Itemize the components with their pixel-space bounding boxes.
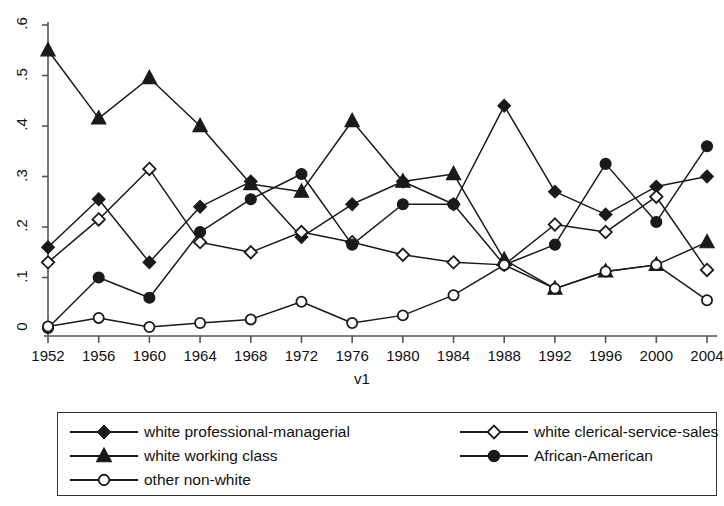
y-axis-tick-label: .4 [8, 116, 34, 136]
x-axis-title: v1 [0, 370, 724, 387]
x-axis-tick-label: 1976 [327, 347, 377, 364]
y-axis-tick-label: .5 [8, 66, 34, 86]
series-1 [42, 163, 713, 276]
plot-svg [0, 0, 724, 400]
legend: white professional-managerialwhite cleri… [57, 412, 717, 496]
plot-area: 0.1.2.3.4.5.6 19521956196019641968197219… [0, 0, 724, 400]
x-axis-tick-label: 1968 [226, 347, 276, 364]
x-axis-tick-label: 1960 [124, 347, 174, 364]
legend-label: African-American [534, 447, 653, 465]
x-axis-tick-label: 2000 [631, 347, 681, 364]
x-axis-tick-label: 1988 [479, 347, 529, 364]
x-axis-tick-label: 1984 [429, 347, 479, 364]
legend-label: white clerical-service-sales [534, 423, 718, 441]
legend-item[interactable]: white professional-managerial [68, 422, 458, 442]
legend-item[interactable]: white working class [68, 446, 458, 466]
legend-label: white professional-managerial [144, 423, 350, 441]
series-0 [42, 100, 713, 269]
x-axis-tick-label: 1952 [23, 347, 73, 364]
x-axis-tick-label: 1972 [276, 347, 326, 364]
series-2 [41, 43, 714, 295]
x-axis-tick-label: 1992 [530, 347, 580, 364]
legend-marker-filled-triangle-icon [68, 446, 140, 466]
y-axis-tick-label: .6 [8, 15, 34, 35]
legend-item[interactable]: white clerical-service-sales [458, 422, 718, 442]
x-axis-ticks [48, 336, 707, 343]
y-axis-tick-label: 0 [8, 318, 34, 338]
x-axis-tick-label: 1956 [74, 347, 124, 364]
legend-label: other non-white [144, 471, 251, 489]
legend-item[interactable]: other non-white [68, 470, 458, 490]
legend-item[interactable]: African-American [458, 446, 718, 466]
legend-marker-open-diamond-icon [458, 422, 530, 442]
chart-container: 0.1.2.3.4.5.6 19521956196019641968197219… [0, 0, 724, 506]
x-axis-tick-label: 1980 [378, 347, 428, 364]
x-axis-tick-label: 1996 [581, 347, 631, 364]
y-axis-tick-label: .3 [8, 167, 34, 187]
y-axis-tick-label: .2 [8, 217, 34, 237]
legend-marker-filled-diamond-icon [68, 422, 140, 442]
x-axis-tick-label: 1964 [175, 347, 225, 364]
x-axis-tick-label: 2004 [682, 347, 724, 364]
legend-marker-filled-circle-icon [458, 446, 530, 466]
legend-label: white working class [144, 447, 278, 465]
y-axis-ticks [42, 25, 48, 328]
legend-marker-open-circle-icon [68, 470, 140, 490]
y-axis-tick-label: .1 [8, 268, 34, 288]
axis-lines [44, 22, 717, 336]
